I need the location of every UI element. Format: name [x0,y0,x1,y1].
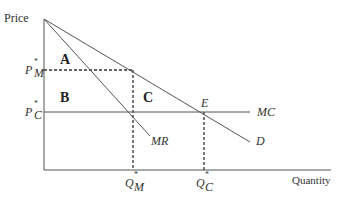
svg-text:*: * [34,99,38,108]
region-b-label: B [60,90,69,105]
svg-text:M: M [133,180,145,194]
mr-label: MR [150,134,169,148]
pc-label: P * C [24,99,43,122]
region-c-label: C [143,90,153,105]
x-axis-label: Quantity [292,174,331,186]
region-a-label: A [60,52,71,67]
svg-text:*: * [205,170,209,179]
mr-curve [44,19,150,136]
mc-label: MC [256,105,276,119]
demand-label: D [255,134,265,148]
equilibrium-point-label: E [200,96,209,110]
svg-text:M: M [33,66,45,80]
qc-label: Q * C [196,170,214,194]
svg-text:P: P [24,105,33,119]
pm-label: P * M [24,57,45,80]
svg-text:C: C [34,108,43,122]
svg-text:P: P [24,63,33,77]
demand-curve [44,19,250,142]
svg-text:*: * [34,57,38,66]
svg-text:Q: Q [196,176,205,190]
svg-text:*: * [134,170,138,179]
svg-text:C: C [205,180,214,194]
qm-label: Q * M [125,170,145,194]
y-axis-label: Price [4,11,29,25]
svg-text:Q: Q [125,176,134,190]
monopoly-diagram: Price Quantity P * M P * C Q * M Q * C M… [0,0,347,198]
